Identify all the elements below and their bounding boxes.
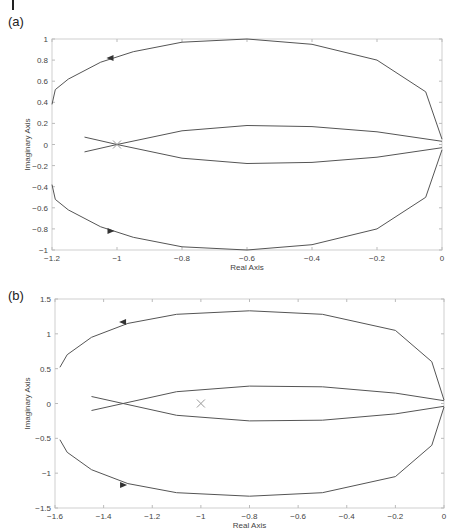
- svg-text:0: 0: [442, 512, 447, 521]
- svg-text:−0.2: −0.2: [387, 512, 403, 521]
- x-axis-label: Real Axis: [233, 521, 266, 530]
- nyquist-curve: [92, 397, 445, 421]
- svg-text:−0.5: −0.5: [35, 434, 51, 443]
- svg-text:−1.4: −1.4: [96, 512, 112, 521]
- svg-text:−1: −1: [42, 469, 52, 478]
- svg-text:−0.4: −0.4: [339, 512, 355, 521]
- svg-text:1: 1: [47, 330, 52, 339]
- axes-frame: [55, 299, 444, 508]
- y-axis-label: Imaginary Axis: [23, 377, 32, 429]
- nyquist-plot-b: −1.6−1.4−1.2−1−0.8−0.6−0.4−0.201.510.50−…: [0, 0, 464, 531]
- critical-point-x-marker: [197, 400, 205, 408]
- svg-text:−1.6: −1.6: [47, 512, 63, 521]
- svg-text:−1.2: −1.2: [144, 512, 160, 521]
- svg-text:1.5: 1.5: [40, 295, 52, 304]
- direction-arrow-icon: [119, 319, 126, 325]
- svg-text:−1.5: −1.5: [35, 504, 51, 513]
- svg-text:0: 0: [47, 400, 52, 409]
- svg-text:−1: −1: [196, 512, 206, 521]
- svg-text:−0.8: −0.8: [242, 512, 258, 521]
- x-axis-ticks: −1.6−1.4−1.2−1−0.8−0.6−0.4−0.20: [47, 299, 447, 521]
- svg-text:−0.6: −0.6: [290, 512, 306, 521]
- nyquist-curve: [92, 386, 445, 410]
- svg-text:0.5: 0.5: [40, 365, 52, 374]
